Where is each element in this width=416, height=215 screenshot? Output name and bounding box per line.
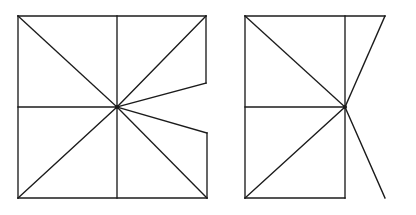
figure-svg [0,0,416,215]
right-figure-center-point [343,105,347,109]
figure-canvas [0,0,416,215]
left-figure-center-point [115,105,119,109]
